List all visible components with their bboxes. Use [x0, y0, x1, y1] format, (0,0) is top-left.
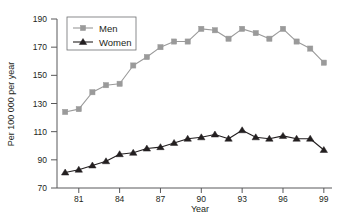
x-tick-label: 87	[156, 194, 166, 204]
x-tick-label: 84	[115, 194, 125, 204]
chart-legend: MenWomen	[67, 17, 136, 50]
data-point-marker	[103, 83, 108, 88]
legend-item-label: Men	[99, 23, 117, 34]
y-tick-label: 170	[33, 42, 47, 52]
data-point-marker	[240, 26, 245, 31]
y-axis-tick-labels: 7090110130150170190	[33, 14, 47, 193]
data-point-marker	[279, 132, 286, 138]
y-axis-ticks	[51, 19, 57, 188]
x-axis-ticks	[79, 188, 324, 193]
data-point-marker	[212, 28, 217, 33]
data-point-marker	[185, 39, 190, 44]
data-point-marker	[308, 46, 313, 51]
data-point-marker	[131, 63, 136, 68]
y-tick-label: 150	[33, 70, 47, 80]
x-tick-label: 96	[278, 194, 288, 204]
data-point-marker	[211, 131, 218, 137]
data-point-marker	[280, 26, 285, 31]
data-point-marker	[294, 39, 299, 44]
y-tick-label: 130	[33, 99, 47, 109]
data-point-marker	[158, 45, 163, 50]
line-chart: 7090110130150170190 81848790939699 Year …	[0, 0, 339, 220]
data-point-marker	[199, 26, 204, 31]
data-point-marker	[238, 127, 245, 133]
data-point-marker	[253, 30, 258, 35]
data-point-marker	[267, 36, 272, 41]
x-axis-tick-labels: 81848790939699	[74, 194, 329, 204]
data-point-marker	[63, 109, 68, 114]
data-point-marker	[76, 107, 81, 112]
data-point-marker	[171, 39, 176, 44]
data-point-marker	[321, 60, 326, 65]
data-point-marker	[144, 54, 149, 59]
chart-canvas: 7090110130150170190 81848790939699 Year …	[0, 0, 339, 220]
legend-item-label: Women	[99, 37, 132, 48]
data-point-marker	[80, 25, 85, 30]
y-axis-title: Per 100 000 per year	[6, 62, 16, 147]
x-tick-label: 81	[74, 194, 84, 204]
data-point-marker	[226, 36, 231, 41]
series-women	[61, 127, 327, 175]
y-tick-label: 110	[33, 127, 47, 137]
data-point-marker	[90, 90, 95, 95]
data-point-marker	[252, 134, 259, 140]
y-tick-label: 70	[38, 183, 48, 193]
x-tick-label: 99	[319, 194, 329, 204]
data-point-marker	[102, 158, 109, 164]
x-axis-title: Year	[191, 204, 209, 214]
x-tick-label: 90	[197, 194, 207, 204]
y-tick-label: 190	[33, 14, 47, 24]
x-tick-label: 93	[237, 194, 247, 204]
y-tick-label: 90	[38, 155, 48, 165]
data-point-marker	[117, 81, 122, 86]
